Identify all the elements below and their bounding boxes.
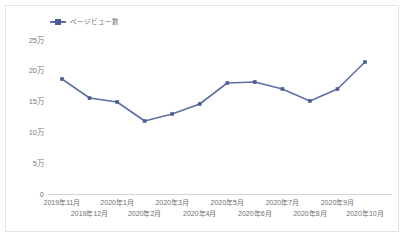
x-axis-tick-label: 2020年9月 [321, 198, 354, 207]
x-axis-tick-label: 2019年11月 [44, 198, 81, 207]
x-axis-labels: 2019年11月2019年12月2020年1月2020年2月2020年3月202… [0, 0, 410, 245]
x-axis-tick-label: 2020年6月 [238, 209, 271, 218]
x-axis-tick-label: 2020年1月 [100, 198, 133, 207]
x-axis-tick-label: 2020年5月 [211, 198, 244, 207]
x-axis-tick-label: 2019年12月 [71, 209, 108, 218]
x-axis-tick-label: 2020年3月 [155, 198, 188, 207]
x-axis-tick-label: 2020年4月 [183, 209, 216, 218]
x-axis-tick-label: 2020年2月 [128, 209, 161, 218]
x-axis-tick-label: 2020年10月 [346, 209, 383, 218]
x-axis-tick-label: 2020年8月 [293, 209, 326, 218]
x-axis-tick-label: 2020年7月 [266, 198, 299, 207]
